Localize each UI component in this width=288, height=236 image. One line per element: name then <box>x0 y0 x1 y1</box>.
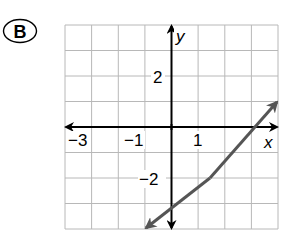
graphed-line <box>146 102 277 228</box>
x-tick-neg3: −3 <box>68 131 87 150</box>
coordinate-graph: y x −3 −1 1 2 −2 <box>0 0 288 236</box>
y-tick-2: 2 <box>153 68 162 87</box>
x-tick-neg1: −1 <box>124 131 143 150</box>
y-axis-label: y <box>175 27 186 46</box>
x-tick-1: 1 <box>193 131 202 150</box>
y-tick-neg2: −2 <box>139 170 158 189</box>
x-axis-label: x <box>263 133 273 152</box>
